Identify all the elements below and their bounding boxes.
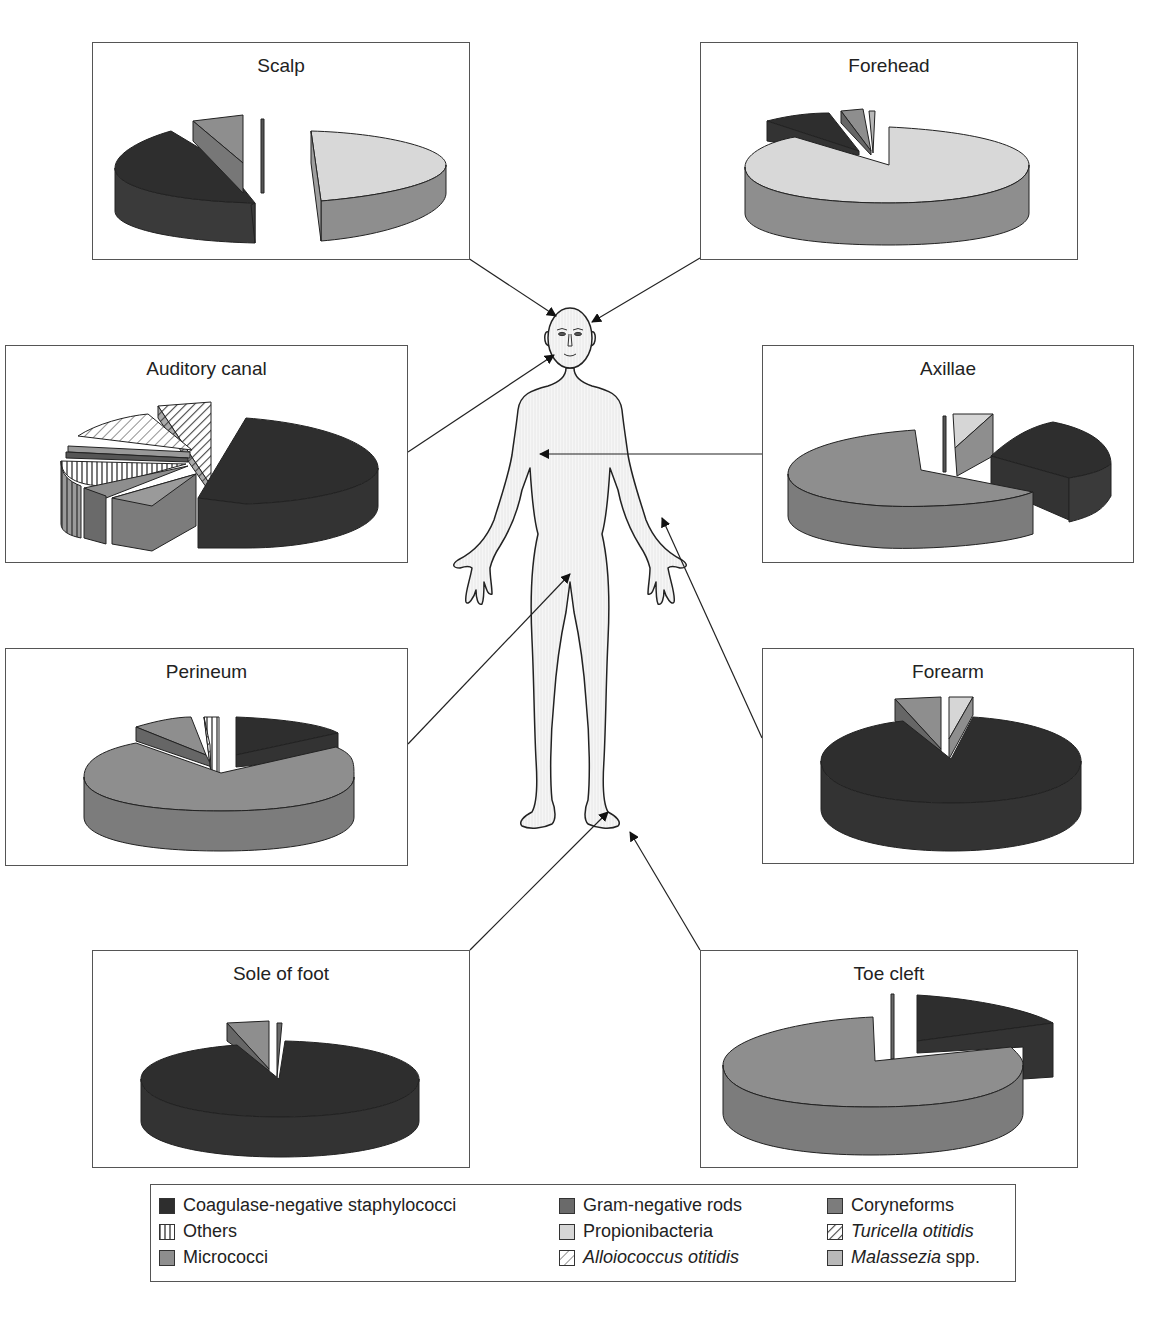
pie-chart-toe-cleft xyxy=(701,951,1079,1169)
legend-label: Alloiococcus otitidis xyxy=(583,1247,739,1268)
legend-item-micrococci: Micrococci xyxy=(159,1247,268,1268)
panel-toe-cleft: Toe cleft xyxy=(700,950,1078,1168)
panel-sole-of-foot: Sole of foot xyxy=(92,950,470,1168)
legend-item-malassezia: Malassezia spp. xyxy=(827,1247,980,1268)
pie-chart-scalp xyxy=(93,43,471,261)
panel-axillae: Axillae xyxy=(762,345,1134,563)
legend-label: Others xyxy=(183,1221,237,1242)
swatch-solid-icon xyxy=(559,1198,575,1214)
panel-auditory-canal: Auditory canal xyxy=(5,345,408,563)
legend-item-gram-negative-rods: Gram-negative rods xyxy=(559,1195,742,1216)
arrow-forearm xyxy=(662,518,762,738)
panel-forearm: Forearm xyxy=(762,648,1134,864)
swatch-solid-icon xyxy=(827,1250,843,1266)
legend-item-cons: Coagulase-negative staphylococci xyxy=(159,1195,456,1216)
legend-item-turicella: Turicella otitidis xyxy=(827,1221,974,1242)
legend-label: Propionibacteria xyxy=(583,1221,713,1242)
swatch-solid-icon xyxy=(159,1250,175,1266)
arrow-toe xyxy=(630,832,700,950)
legend-label: Gram-negative rods xyxy=(583,1195,742,1216)
legend-item-others: Others xyxy=(159,1221,237,1242)
arrow-scalp xyxy=(468,258,556,316)
swatch-solid-icon xyxy=(559,1224,575,1240)
arrow-sole xyxy=(470,812,608,950)
swatch-diagonal-dark-icon xyxy=(827,1224,843,1240)
legend-label: Coryneforms xyxy=(851,1195,954,1216)
legend-label: Turicella otitidis xyxy=(851,1221,974,1242)
swatch-solid-icon xyxy=(827,1198,843,1214)
legend-label-italic: Malassezia xyxy=(851,1247,941,1268)
arrow-forehead xyxy=(592,258,700,322)
legend: Coagulase-negative staphylococci Others … xyxy=(150,1184,1016,1282)
legend-item-propionibacteria: Propionibacteria xyxy=(559,1221,713,1242)
pie-chart-axillae xyxy=(763,346,1135,564)
pie-chart-perineum xyxy=(6,649,409,867)
swatch-diagonal-light-icon xyxy=(559,1250,575,1266)
pie-chart-forehead xyxy=(701,43,1079,261)
panel-perineum: Perineum xyxy=(5,648,408,866)
legend-label-suffix: spp. xyxy=(941,1247,980,1268)
panel-scalp: Scalp xyxy=(92,42,470,260)
swatch-vertical-lines-icon xyxy=(159,1224,175,1240)
legend-label: Micrococci xyxy=(183,1247,268,1268)
legend-item-alloiococcus: Alloiococcus otitidis xyxy=(559,1247,739,1268)
legend-item-coryneforms: Coryneforms xyxy=(827,1195,954,1216)
legend-label: Coagulase-negative staphylococci xyxy=(183,1195,456,1216)
panel-forehead: Forehead xyxy=(700,42,1078,260)
body-outline xyxy=(454,308,687,828)
pie-chart-forearm xyxy=(763,649,1135,865)
pie-chart-sole-of-foot xyxy=(93,951,471,1169)
swatch-solid-icon xyxy=(159,1198,175,1214)
pie-chart-auditory-canal xyxy=(6,346,409,564)
